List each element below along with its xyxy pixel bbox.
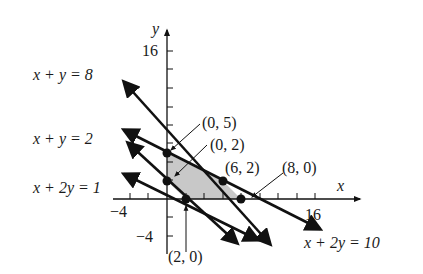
y-tick-neg4: −4 xyxy=(136,228,153,245)
label-point-8-0: (8, 0) xyxy=(282,159,317,177)
x-tick-neg4: −4 xyxy=(110,203,127,220)
label-x-plus-2y-1: x + 2y = 1 xyxy=(32,179,101,197)
label-point-0-2: (0, 2) xyxy=(210,136,245,154)
label-point-6-2: (6, 2) xyxy=(225,159,260,177)
vertex-6-2 xyxy=(219,177,228,186)
y-axis xyxy=(167,30,173,254)
vertex-0-5 xyxy=(163,149,172,158)
vertex-2-0 xyxy=(182,195,191,204)
label-point-0-5: (0, 5) xyxy=(202,114,237,132)
x-axis-label: x xyxy=(336,177,344,194)
label-x-plus-y-2: x + y = 2 xyxy=(32,130,93,148)
y-axis-label: y xyxy=(150,20,160,38)
x-tick-16: 16 xyxy=(305,206,321,223)
label-x-plus-y-8: x + y = 8 xyxy=(32,66,93,84)
vertex-0-2 xyxy=(163,177,172,186)
y-tick-16: 16 xyxy=(142,42,158,59)
lp-graph: x y 16 −4 −4 16 x + y = 8 x + y = 2 x + … xyxy=(0,0,423,274)
vertex-8-0 xyxy=(237,195,246,204)
label-point-2-0: (2, 0) xyxy=(168,248,203,266)
label-x-plus-2y-10: x + 2y = 10 xyxy=(303,234,380,252)
